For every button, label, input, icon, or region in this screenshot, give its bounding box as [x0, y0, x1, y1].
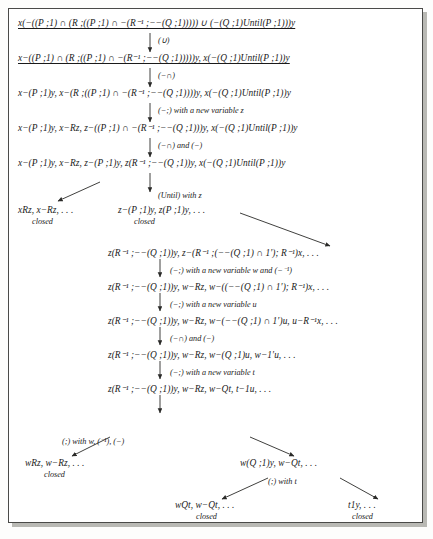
- tableau-node-root: x(−((P ;1) ∩ (R ;((P ;1) ∩ −(R⁻¹ ;−−(Q ;…: [18, 18, 295, 29]
- tableau-node-11: z(R⁻¹ ;−−(Q ;1))y, w−Rz, w−Qt, t−1u, . .…: [108, 384, 271, 395]
- tableau-node-3: x−(P ;1)y, x−(R ;((P ;1) ∩ −(R⁻¹ ;−−(Q ;…: [18, 88, 291, 99]
- rule-label-neg-cap-neg-2: (−∩) and (−): [170, 334, 214, 344]
- tableau-node-12-right: w(Q ;1)y, w−Qt, . . .: [240, 458, 317, 469]
- tableau-node-6-right: z−(P ;1)y, z(P ;1)y, . . .: [118, 205, 205, 216]
- rule-label-union: (∪): [158, 36, 169, 46]
- rule-label-neg-cap-1: (−∩): [158, 71, 175, 81]
- tableau-node-10: z(R⁻¹ ;−−(Q ;1))y, w−Rz, w−(Q ;1)u, w−1′…: [108, 350, 296, 361]
- tableau-node-7: z(R⁻¹ ;−−(Q ;1))y, z−(R⁻¹ ;(−−(Q ;1) ∩ 1…: [108, 248, 319, 259]
- tableau-node-2: x−((P ;1) ∩ (R ;((P ;1) ∩ −(R⁻¹ ;−−(Q ;1…: [18, 53, 290, 64]
- tableau-node-6-left: xRz, x−Rz, . . .: [18, 205, 73, 216]
- rule-label-neg-seq-w: (−;) with a new variable w and (−⁻¹): [170, 266, 292, 276]
- tableau-node-4: x−(P ;1)y, x−Rz, z−((P ;1) ∩ −(R⁻¹ ;−−(Q…: [18, 123, 298, 134]
- tableau-node-13-left: wQt, w−Qt, . . .: [175, 500, 234, 511]
- closed-marker-3: closed: [44, 470, 65, 479]
- tableau-figure: x(−((P ;1) ∩ (R ;((P ;1) ∩ −(R⁻¹ ;−−(Q ;…: [0, 0, 433, 539]
- rule-label-seq-t: (;) with t: [268, 477, 297, 487]
- closed-marker-2: closed: [134, 217, 155, 226]
- closed-marker-4: closed: [196, 512, 217, 521]
- closed-marker-5: closed: [352, 512, 373, 521]
- tableau-node-5: x−(P ;1)y, x−Rz, z−(P ;1)y, z(R⁻¹ ;−−(Q …: [18, 158, 285, 169]
- tableau-node-13-right: t1y, . . .: [348, 500, 376, 511]
- rule-label-neg-seq-t: (−;) with a new variable t: [170, 368, 255, 378]
- tableau-node-12-left: wRz, w−Rz, . . .: [25, 458, 84, 469]
- rule-label-neg-cap-neg: (−∩) and (−): [158, 141, 202, 151]
- closed-marker-1: closed: [32, 217, 53, 226]
- tableau-node-9: z(R⁻¹ ;−−(Q ;1))y, w−Rz, w−(−−(Q ;1) ∩ 1…: [108, 316, 338, 327]
- rule-label-neg-seq-u: (−;) with a new variable u: [170, 300, 257, 310]
- rule-label-neg-seq-z: (−;) with a new variable z: [158, 106, 244, 116]
- rule-label-until-z: (Until) with z: [158, 191, 202, 201]
- rule-label-seq-w: (;) with w, (⁻¹), (−): [62, 437, 124, 447]
- tableau-node-8: z(R⁻¹ ;−−(Q ;1))y, w−Rz, w−((−−(Q ;1) ∩ …: [108, 282, 329, 293]
